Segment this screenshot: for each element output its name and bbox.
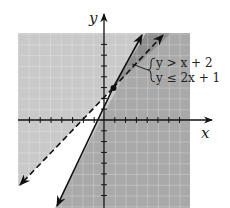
intersection-point: [111, 85, 117, 91]
y-axis-label: y: [88, 9, 98, 27]
inequality-1: y > x + 2: [155, 56, 213, 70]
x-axis-label: x: [201, 124, 210, 142]
inequality-graph: y x y > x + 2 y ≤ 2x + 1: [0, 0, 230, 208]
inequality-2: y ≤ 2x + 1: [155, 71, 220, 85]
